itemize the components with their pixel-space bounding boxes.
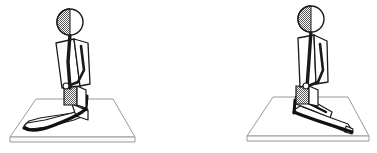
torso-left-figure bbox=[56, 39, 90, 88]
torso-right-figure bbox=[298, 35, 328, 87]
head-left-figure bbox=[57, 9, 83, 35]
leg-accent2-right bbox=[294, 100, 295, 113]
hand-right-figure bbox=[303, 83, 309, 89]
figure-canvas bbox=[0, 0, 377, 153]
head-right-figure bbox=[298, 6, 324, 32]
figure-drawing bbox=[0, 0, 377, 153]
spine-left-figure bbox=[68, 34, 70, 88]
panel-right-figure bbox=[247, 6, 369, 141]
hand-left-figure bbox=[63, 83, 69, 89]
panel-left-figure bbox=[10, 9, 135, 142]
